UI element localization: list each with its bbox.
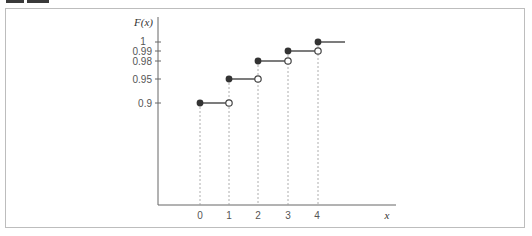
x-tick-label-4: 4 [314, 210, 320, 221]
open-endpoints [226, 48, 321, 106]
y-tick-label-0.98: 0.98 [133, 56, 153, 67]
x-tick-label-2: 2 [255, 210, 261, 221]
x-axis-title: x [384, 209, 390, 221]
x-tick-label-0: 0 [197, 210, 203, 221]
dashed-guides [200, 42, 318, 205]
closed-endpoints [197, 39, 322, 107]
cdf-step-chart: 1 0.99 0.98 0.95 0.9 F(x) 0 1 2 3 4 x [0, 0, 532, 236]
x-tick-label-1: 1 [226, 210, 232, 221]
y-axis-title: F(x) [133, 16, 153, 29]
step-segments [200, 42, 345, 103]
y-tick-label-0.95: 0.95 [133, 74, 153, 85]
y-tick-label-0.9: 0.9 [138, 98, 152, 109]
x-tick-label-3: 3 [285, 210, 291, 221]
